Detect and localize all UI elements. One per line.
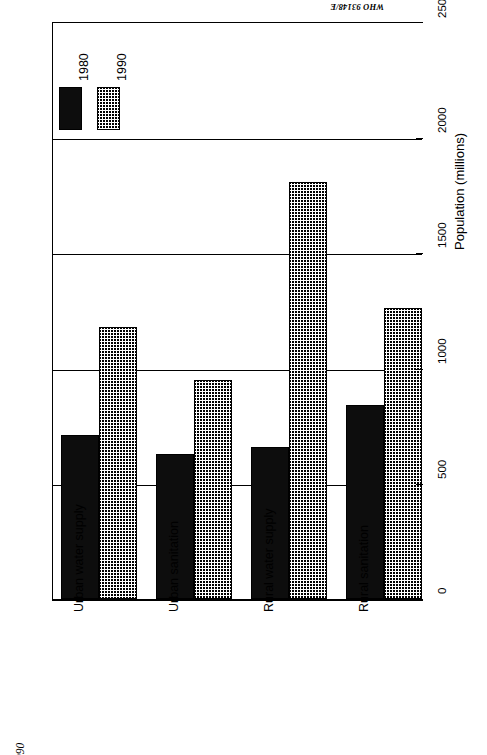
bar-urban-sanitation-1990	[194, 380, 232, 599]
legend-swatch-1990	[97, 87, 120, 130]
legend-label-1990: 1990	[115, 53, 129, 81]
bar-urban-water-supply-1990	[99, 327, 137, 599]
who-source-code: WHO 93148/E	[330, 2, 450, 12]
axis-tick-text-2000: 2000	[436, 107, 448, 133]
axis-tick-text-1500: 1500	[436, 222, 448, 248]
axis-tick-label-0: 0	[424, 594, 464, 608]
tickmark-1500	[416, 253, 423, 254]
category-label-urban-water-supply: Urban water supply	[72, 504, 86, 612]
legend-label-1980: 1980	[77, 53, 91, 81]
axis-tick-label-500: 500	[424, 479, 464, 493]
axis-tick-text-1000: 1000	[436, 338, 448, 364]
figure-caption-text: Levels of service coverage in developing…	[14, 310, 28, 755]
figure-caption: Fig. 6.1 Levels of service coverage in d…	[0, 0, 40, 755]
bar-rural-water-supply-1990	[289, 182, 327, 599]
axis-tick-label-1000: 1000	[424, 364, 464, 378]
value-axis-title: Population (millions)	[452, 133, 467, 250]
figure-number: Fig. 6.1	[0, 310, 14, 755]
category-label-urban-sanitation: Urban sanitation	[167, 521, 181, 612]
legend-entry-1990: 1990	[97, 35, 121, 131]
axis-tick-label-1500: 1500	[424, 248, 464, 262]
axis-tick-text-2500: 2500	[436, 0, 448, 18]
category-label-rural-water-supply: Rural water supply	[262, 508, 276, 612]
tickmark-500	[416, 484, 423, 485]
tickmark-0	[416, 599, 423, 600]
category-label-rural-sanitation: Rural sanitation	[357, 525, 371, 612]
legend-swatch-1980	[59, 87, 82, 130]
gridline-2000	[53, 139, 422, 140]
gridline-1500	[53, 254, 422, 255]
legend-entry-1980: 1980	[59, 35, 83, 131]
tickmark-1000	[416, 369, 423, 370]
axis-tick-text-500: 500	[436, 460, 448, 479]
chart-legend: 1980 1990	[59, 35, 137, 131]
bar-rural-sanitation-1990	[384, 308, 422, 599]
axis-tick-label-2500: 2500	[424, 18, 464, 32]
tickmark-2250	[416, 22, 423, 23]
axis-tick-text-0: 0	[436, 588, 448, 594]
chart-plot-area: 1980 1990	[52, 22, 422, 600]
tickmark-2000	[416, 138, 423, 139]
